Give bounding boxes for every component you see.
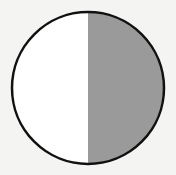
circle-shaded-half bbox=[88, 12, 164, 164]
fraction-diagram bbox=[0, 0, 176, 175]
fraction-circle-svg bbox=[0, 0, 176, 175]
